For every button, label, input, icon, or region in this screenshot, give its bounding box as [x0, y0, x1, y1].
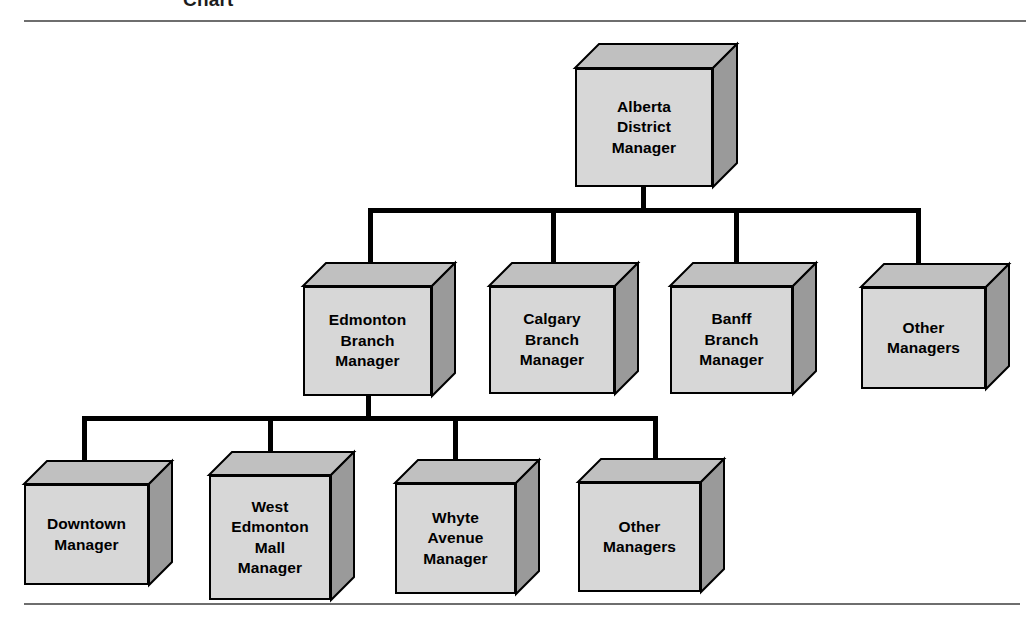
connector-to-whyte-avenue: [453, 416, 458, 462]
connector-to-edmonton: [368, 208, 373, 265]
connector-to-other-managers-level3: [653, 416, 658, 461]
divider-top: [24, 20, 1026, 22]
box-top-face: [303, 263, 455, 286]
connector-to-west-edmonton-mall: [268, 416, 273, 454]
org-chart-page: Chart Alberta District Manager Edmonton …: [0, 0, 1026, 622]
box-side-face: [149, 461, 172, 585]
org-node-label: Downtown Manager: [43, 514, 130, 555]
box-front-face: Downtown Manager: [24, 484, 149, 585]
connector-to-calgary: [551, 208, 556, 265]
box-top-face: [670, 263, 816, 286]
page-title: Chart: [183, 0, 383, 11]
org-node-west-edmonton-mall-manager[interactable]: West Edmonton Mall Manager: [209, 452, 331, 577]
box-top-face: [209, 452, 354, 475]
org-node-label: Banff Branch Manager: [695, 309, 767, 370]
box-top-face: [489, 263, 638, 286]
box-top-face: [578, 459, 724, 482]
connector-to-downtown: [82, 416, 87, 463]
org-node-label: Alberta District Manager: [608, 97, 680, 158]
connector-to-other-managers-level2: [916, 208, 921, 265]
org-node-edmonton-branch-manager[interactable]: Edmonton Branch Manager: [303, 263, 432, 373]
connector-to-banff: [734, 208, 739, 265]
box-top-face: [575, 44, 737, 68]
box-side-face: [713, 44, 737, 187]
org-node-banff-branch-manager[interactable]: Banff Branch Manager: [670, 263, 793, 371]
box-side-face: [615, 263, 638, 394]
box-front-face: Other Managers: [578, 482, 701, 592]
org-node-label: Calgary Branch Manager: [516, 309, 588, 370]
org-node-downtown-manager[interactable]: Downtown Manager: [24, 461, 149, 562]
org-node-label: Other Managers: [883, 318, 964, 359]
box-top-face: [861, 264, 1009, 287]
box-side-face: [432, 263, 455, 396]
box-front-face: Edmonton Branch Manager: [303, 286, 432, 396]
connector-level2-bus: [368, 208, 921, 213]
box-front-face: Banff Branch Manager: [670, 286, 793, 394]
box-front-face: Calgary Branch Manager: [489, 286, 615, 394]
box-side-face: [331, 452, 354, 600]
org-node-other-managers-level3[interactable]: Other Managers: [578, 459, 701, 569]
box-front-face: West Edmonton Mall Manager: [209, 475, 331, 600]
box-top-face: [395, 460, 539, 483]
box-side-face: [793, 263, 816, 394]
org-node-other-managers-level2[interactable]: Other Managers: [861, 264, 986, 366]
org-node-calgary-branch-manager[interactable]: Calgary Branch Manager: [489, 263, 615, 371]
box-side-face: [986, 264, 1009, 389]
divider-bottom: [24, 603, 1020, 605]
org-node-alberta-district-manager[interactable]: Alberta District Manager: [575, 44, 713, 163]
box-side-face: [516, 460, 539, 594]
org-node-label: West Edmonton Mall Manager: [227, 497, 312, 579]
box-top-face: [24, 461, 172, 484]
box-front-face: Alberta District Manager: [575, 68, 713, 187]
org-node-label: Whyte Avenue Manager: [419, 508, 491, 569]
org-node-label: Edmonton Branch Manager: [325, 310, 410, 371]
org-node-label: Other Managers: [599, 517, 680, 558]
connector-level3-bus: [82, 416, 658, 421]
box-front-face: Other Managers: [861, 287, 986, 389]
box-front-face: Whyte Avenue Manager: [395, 483, 516, 594]
org-node-whyte-avenue-manager[interactable]: Whyte Avenue Manager: [395, 460, 516, 571]
box-side-face: [701, 459, 724, 592]
